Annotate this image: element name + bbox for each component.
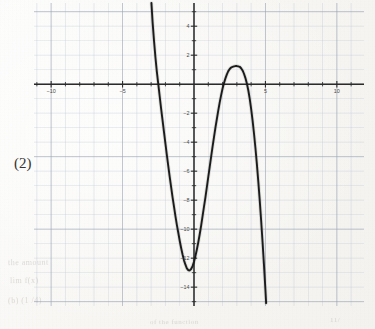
x-tick-label: 10	[334, 88, 340, 94]
y-tick-label: −12	[180, 255, 189, 261]
y-tick-label: −2	[183, 110, 189, 116]
y-tick-label: 4	[187, 23, 190, 29]
y-tick-label: −6	[183, 168, 189, 174]
x-tick-label: −5	[119, 88, 125, 94]
grid-major-lines	[34, 3, 364, 306]
axis-lines	[34, 3, 364, 306]
x-tick-label: −10	[47, 88, 56, 94]
x-tick-label: 5	[264, 88, 267, 94]
y-tick-label: −4	[183, 139, 189, 145]
y-tick-label: 2	[187, 52, 190, 58]
graph-figure: −10−551042−2−4−6−8−10−12−14	[0, 0, 375, 329]
y-tick-label: −10	[180, 226, 189, 232]
grid-minor-lines	[34, 3, 364, 306]
coordinate-plane-svg: −10−551042−2−4−6−8−10−12−14	[0, 0, 375, 329]
y-tick-label: −8	[183, 197, 189, 203]
y-tick-label: −14	[180, 284, 189, 290]
